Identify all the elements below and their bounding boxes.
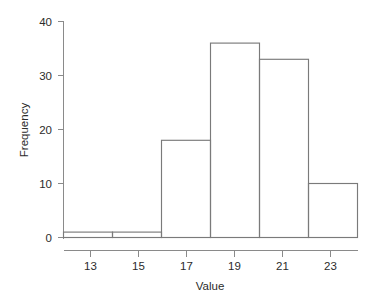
x-tick-label-21: 21 <box>276 260 289 272</box>
x-tick-label-23: 23 <box>324 260 337 272</box>
y-axis-title: Frequency <box>18 103 30 158</box>
x-tick-label-19: 19 <box>228 260 241 272</box>
x-tick-label-15: 15 <box>132 260 145 272</box>
histogram-plot: 40 30 20 10 0 Frequency 13 15 17 19 21 2… <box>0 0 388 302</box>
chart-background <box>0 0 388 302</box>
x-tick-label-13: 13 <box>84 260 97 272</box>
y-tick-label-40: 40 <box>39 16 52 28</box>
y-tick-label-20: 20 <box>39 124 52 136</box>
histogram-chart: 40 30 20 10 0 Frequency 13 15 17 19 21 2… <box>0 0 388 302</box>
x-tick-label-17: 17 <box>180 260 193 272</box>
y-tick-label-10: 10 <box>39 178 52 190</box>
y-tick-label-30: 30 <box>39 70 52 82</box>
x-axis-title: Value <box>196 280 225 292</box>
y-tick-label-0: 0 <box>46 232 52 244</box>
